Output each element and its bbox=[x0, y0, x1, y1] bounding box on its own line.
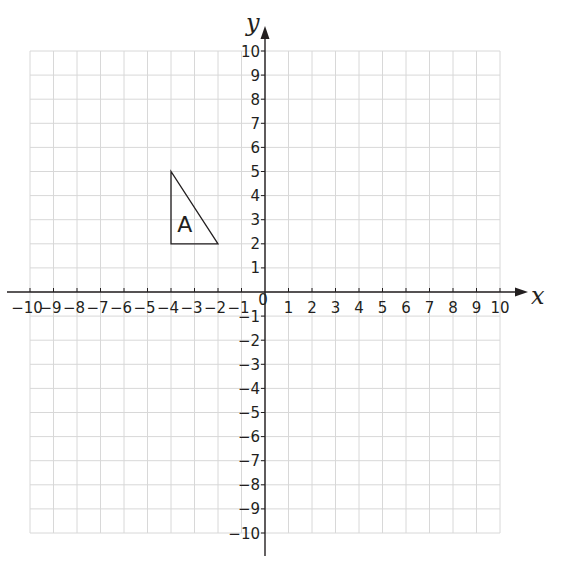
y-axis-arrow-icon bbox=[261, 26, 270, 39]
y-tick-label: −9 bbox=[238, 500, 260, 518]
y-tick-label: −4 bbox=[238, 380, 260, 398]
y-tick-label: −5 bbox=[238, 404, 260, 422]
x-tick-label: −3 bbox=[180, 299, 202, 317]
x-tick-label: 2 bbox=[307, 299, 317, 317]
x-tick-label: 7 bbox=[425, 299, 435, 317]
x-tick-label: 1 bbox=[284, 299, 294, 317]
x-tick-label: −6 bbox=[110, 299, 132, 317]
x-tick-label: −2 bbox=[204, 299, 226, 317]
axes: xy bbox=[7, 9, 545, 556]
y-tick-label: 8 bbox=[250, 91, 260, 109]
x-tick-label: 10 bbox=[490, 299, 509, 317]
y-tick-label: −6 bbox=[238, 428, 260, 446]
y-tick-label: −3 bbox=[238, 356, 260, 374]
y-tick-label: 9 bbox=[250, 67, 260, 85]
y-tick-label: −2 bbox=[238, 332, 260, 350]
y-tick-label: −1 bbox=[238, 308, 260, 326]
y-tick-label: 10 bbox=[241, 43, 260, 61]
x-tick-label: 9 bbox=[472, 299, 482, 317]
x-tick-label: 4 bbox=[354, 299, 364, 317]
x-tick-label: −7 bbox=[86, 299, 108, 317]
y-tick-label: −7 bbox=[238, 452, 260, 470]
y-tick-label: 6 bbox=[250, 139, 260, 157]
x-tick-label: 6 bbox=[401, 299, 411, 317]
y-tick-label: 3 bbox=[250, 211, 260, 229]
y-tick-label: 4 bbox=[250, 187, 260, 205]
coordinate-plane: xy −10−9−8−7−6−5−4−3−2−11234567891010987… bbox=[0, 0, 561, 565]
y-tick-label: −10 bbox=[228, 525, 260, 543]
x-tick-label: 8 bbox=[448, 299, 458, 317]
x-tick-label: 3 bbox=[331, 299, 341, 317]
y-tick-label: 5 bbox=[250, 163, 260, 181]
x-tick-label: −4 bbox=[157, 299, 179, 317]
y-tick-label: −8 bbox=[238, 476, 260, 494]
x-tick-label: −10 bbox=[11, 299, 43, 317]
shape-label-a: A bbox=[177, 212, 192, 237]
origin-label: 0 bbox=[258, 291, 268, 309]
x-axis-label: x bbox=[531, 282, 545, 310]
y-tick-label: 2 bbox=[250, 235, 260, 253]
y-axis-label: y bbox=[245, 9, 260, 37]
x-axis-arrow-icon bbox=[515, 288, 528, 297]
y-tick-label: 1 bbox=[250, 259, 260, 277]
coordinate-grid-figure: xy −10−9−8−7−6−5−4−3−2−11234567891010987… bbox=[0, 0, 561, 565]
x-tick-label: −9 bbox=[39, 299, 61, 317]
y-tick-label: 7 bbox=[250, 115, 260, 133]
x-tick-label: −5 bbox=[133, 299, 155, 317]
x-tick-label: −8 bbox=[63, 299, 85, 317]
x-tick-label: 5 bbox=[378, 299, 388, 317]
